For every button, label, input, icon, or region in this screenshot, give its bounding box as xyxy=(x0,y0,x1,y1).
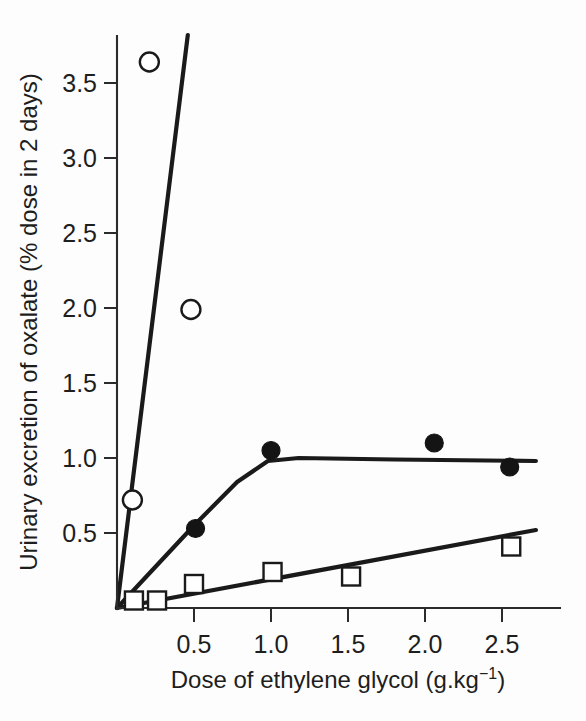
data-point-open-square xyxy=(264,563,282,581)
y-tick-label: 2.0 xyxy=(62,294,97,322)
fit-line-group xyxy=(117,35,536,608)
y-axis-title: Urinary excretion of oxalate (% dose in … xyxy=(15,73,42,571)
y-tick-label: 3.0 xyxy=(62,144,97,172)
data-point-open-circle xyxy=(181,300,200,319)
figure-panel: 0.51.01.52.02.53.03.5 0.51.01.52.02.5 Do… xyxy=(0,0,586,721)
data-point-filled-circle xyxy=(187,520,205,538)
data-point-filled-circle xyxy=(425,434,443,452)
data-point-open-square xyxy=(342,568,360,586)
y-tick-label: 1.5 xyxy=(62,369,97,397)
x-tick-label: 2.0 xyxy=(408,630,443,658)
y-tick-label: 0.5 xyxy=(62,519,97,547)
data-point-open-circle xyxy=(123,491,142,510)
x-tick-label: 1.0 xyxy=(254,630,289,658)
axes-group xyxy=(117,36,560,609)
data-point-open-square xyxy=(148,592,166,610)
x-tick-label: 0.5 xyxy=(177,630,212,658)
x-tick-label: 1.5 xyxy=(331,630,366,658)
x-axis-title: Dose of ethylene glycol (g.kg−1) xyxy=(171,665,505,693)
scatter-plot: 0.51.01.52.02.53.03.5 0.51.01.52.02.5 Do… xyxy=(0,0,586,721)
y-tick-label: 3.5 xyxy=(62,69,97,97)
fit-line-filled-circles xyxy=(117,458,536,608)
y-tick-label: 1.0 xyxy=(62,444,97,472)
data-point-open-circle xyxy=(140,53,159,72)
fit-line-open-circles xyxy=(117,35,188,608)
data-point-open-square xyxy=(185,575,203,593)
x-tick-group: 0.51.01.52.02.5 xyxy=(177,608,520,658)
data-point-filled-circle xyxy=(262,442,280,460)
data-marker-group xyxy=(123,53,520,610)
data-point-open-square xyxy=(125,592,143,610)
data-point-open-square xyxy=(502,538,520,556)
data-point-filled-circle xyxy=(501,458,519,476)
y-tick-group: 0.51.01.52.02.53.03.5 xyxy=(62,69,117,547)
x-tick-label: 2.5 xyxy=(485,630,520,658)
y-tick-label: 2.5 xyxy=(62,219,97,247)
